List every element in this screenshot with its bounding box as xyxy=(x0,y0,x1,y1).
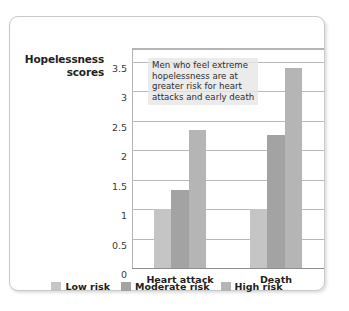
chart-annotation: Men who feel extreme hopelessness are at… xyxy=(148,58,258,105)
plot-area: 00.511.522.533.5 Heart attackDeath Men w… xyxy=(132,48,324,269)
legend-item[interactable]: Moderate risk xyxy=(121,281,210,292)
bar xyxy=(285,68,303,268)
chart-card: Hopelessness scores 00.511.522.533.5 Hea… xyxy=(9,16,325,291)
chart-legend: Low riskModerate riskHigh risk xyxy=(10,281,324,292)
bar xyxy=(189,130,207,268)
legend-swatch xyxy=(121,282,131,291)
legend-swatch xyxy=(221,282,231,291)
legend-item[interactable]: Low risk xyxy=(51,281,110,292)
legend-item[interactable]: High risk xyxy=(221,281,283,292)
bar xyxy=(154,209,172,268)
axis-baseline xyxy=(132,268,324,269)
legend-label: Low risk xyxy=(65,281,110,292)
legend-swatch xyxy=(51,282,61,291)
legend-label: High risk xyxy=(235,281,283,292)
y-axis-title: Hopelessness scores xyxy=(18,53,104,78)
bar xyxy=(171,190,189,268)
legend-label: Moderate risk xyxy=(135,281,210,292)
bar xyxy=(267,135,285,268)
bar xyxy=(250,209,268,268)
